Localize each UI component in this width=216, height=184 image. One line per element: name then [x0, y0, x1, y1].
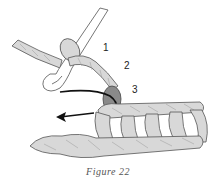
- loop-chain-upper: [68, 56, 118, 90]
- label-2: 2: [124, 60, 130, 71]
- label-3: 3: [132, 84, 138, 95]
- label-1: 1: [103, 42, 109, 53]
- crochet-illustration: [0, 0, 216, 184]
- figure-caption: Figure 22: [0, 166, 216, 177]
- foundation-chain: [30, 134, 203, 157]
- working-yarn: [12, 40, 62, 68]
